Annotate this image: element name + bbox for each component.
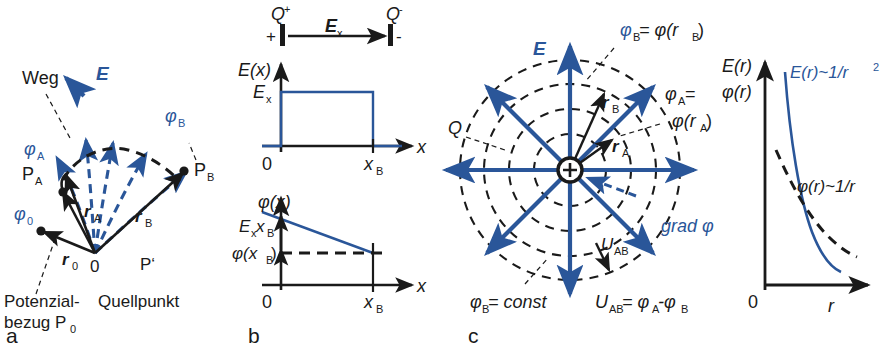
label-phiA-sub: A: [37, 150, 45, 162]
label-potentialref-line2-sub: 0: [70, 323, 76, 335]
label-grad-phi: grad φ: [661, 216, 714, 236]
chart-Er-curve-E-label-sup: 2: [873, 61, 879, 73]
label-phiA-equation-line2: φ(r: [672, 111, 697, 131]
label-r0-sub: 0: [72, 260, 78, 272]
label-Qplus-sup: +: [284, 3, 290, 15]
label-phiA-equation-line2-close: ): [706, 111, 712, 131]
chart-Ex-xtick-xB-label: x: [363, 154, 374, 174]
chart-phix-origin: 0: [262, 292, 272, 312]
label-PB-sub: B: [207, 171, 214, 183]
label-phiB-equation-close: ): [698, 20, 704, 40]
label-weg: Weg: [22, 68, 59, 88]
label-Q-c: Q: [448, 118, 462, 138]
label-phiA: φ: [24, 139, 36, 159]
plate-negative: [388, 24, 393, 46]
label-plate-plus-sign: +: [266, 27, 276, 46]
label-UAB-equation-rest: = φ: [622, 292, 650, 312]
label-phiA-equation: φ: [665, 84, 677, 104]
label-Qplus: Q: [271, 4, 285, 24]
label-potentialref-line1: Potenzial-: [4, 292, 80, 311]
chart-Ex-ylabel: E(x): [238, 60, 271, 80]
label-phiA-equation-rest: =: [685, 84, 696, 104]
label-UAB-sub: AB: [614, 245, 629, 257]
chart-Ex-xlabel: x: [416, 137, 427, 157]
label-E-c: E: [533, 38, 547, 59]
panel-label-b: b: [248, 324, 260, 347]
label-UAB-equation-subB: B: [681, 303, 688, 315]
label-rB-c-sub: B: [612, 103, 619, 115]
chart-Er-curve-E-label: E(r)~1/r: [790, 63, 849, 82]
point-PA-dot: [58, 187, 67, 196]
panel-label-c: c: [468, 324, 479, 347]
chart-Er-xlabel: r: [828, 296, 835, 316]
chart-phix-level-label: φ(x: [232, 244, 258, 263]
label-PB: P: [194, 160, 206, 180]
chart-Ex-ytick-label-sub: x: [266, 93, 272, 105]
label-PA-sub: A: [35, 175, 43, 187]
point-P0-dot: [36, 226, 45, 235]
label-plate-minus-sign: -: [396, 27, 402, 46]
label-phiB-sub: B: [178, 117, 185, 129]
chart-phix-arrow-label2-sub: B: [267, 227, 274, 239]
label-phiB-equation-rest: = φ(r: [639, 20, 679, 40]
panel-label-a: a: [6, 324, 18, 347]
chart-phix-xlabel: x: [416, 276, 427, 296]
label-UAB-equation: U: [595, 292, 609, 312]
plate-positive: [280, 24, 285, 46]
chart-phix-ylabel: φ(x): [258, 192, 291, 212]
label-phi0: φ: [14, 204, 26, 224]
label-source-mark: P‘: [140, 255, 155, 274]
chart-phix-arrow-label: E: [239, 217, 251, 236]
chart-phix-level-label-close: ): [271, 244, 277, 263]
chart-phix-xtick-xB-label: x: [363, 292, 374, 312]
label-phiB-const-rest: = const: [488, 292, 548, 312]
label-Qminus: Q: [386, 4, 400, 24]
chart-Er-ylabel-E: E(r): [722, 56, 752, 76]
label-phi0-sub: 0: [27, 215, 33, 227]
label-quellpunkt: Quellpunkt: [98, 292, 180, 311]
label-Qminus-sup: -: [399, 3, 403, 15]
label-phiB-equation: φ: [620, 20, 632, 40]
label-E-a: E: [96, 63, 110, 84]
chart-Er-ylabel-phi: φ(r): [722, 82, 752, 102]
chart-Ex-origin: 0: [262, 154, 272, 174]
label-UAB: U: [601, 235, 614, 254]
label-PA: P: [22, 164, 34, 184]
chart-Er-curve-phi-label: φ(r)~1/r: [797, 177, 856, 196]
label-rA-c-sub: A: [622, 147, 630, 159]
label-rA-sub: A: [94, 212, 102, 224]
label-rB-sub: B: [145, 217, 152, 229]
chart-Ex-ytick-label: E: [253, 82, 266, 102]
label-Ex-between-sub: x: [337, 27, 343, 39]
label-origin-a: 0: [90, 257, 99, 276]
chart-Er-origin: 0: [748, 292, 758, 312]
figure-electrostatic-potential: Weg E φ A P A φ 0 φ B P B r A r B r 0 0 …: [0, 0, 893, 348]
chart-Ex-xtick-xB-sub: B: [376, 165, 383, 177]
label-phiB: φ: [165, 106, 177, 126]
label-UAB-equation-minus: -φ: [658, 292, 676, 312]
chart-phix-arrow-label2: x: [255, 217, 265, 236]
chart-phix-xtick-xB-sub: B: [376, 303, 383, 315]
label-phiB-const: φ: [470, 292, 482, 312]
point-PB-dot: [179, 166, 188, 175]
